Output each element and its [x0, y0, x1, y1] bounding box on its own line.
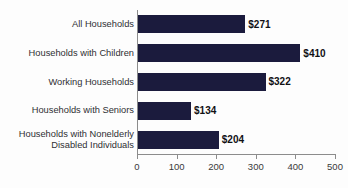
category-label: Households with Nonelderly Disabled Indi…: [4, 129, 134, 150]
x-axis-tick-label: 300: [248, 161, 264, 172]
category-label: Households with Seniors: [4, 105, 134, 116]
x-axis-tick: [177, 155, 178, 159]
bar-row: Households with Children$410: [0, 39, 348, 68]
bar-chart: All Households$271Households with Childr…: [0, 0, 348, 188]
bar-row: Households with Seniors$134: [0, 96, 348, 125]
bar-value-label: $322: [269, 76, 291, 87]
x-axis-tick-label: 400: [287, 161, 303, 172]
x-axis-line: [137, 154, 336, 155]
bar: [138, 131, 219, 149]
bar-with-label: $410: [138, 44, 326, 62]
x-axis-tick: [256, 155, 257, 159]
bar-value-label: $271: [248, 19, 270, 30]
bar-row: All Households$271: [0, 10, 348, 39]
x-axis-tick-label: 200: [208, 161, 224, 172]
bar-value-label: $134: [194, 105, 216, 116]
category-label: Working Households: [4, 77, 134, 88]
x-axis-tick: [295, 155, 296, 159]
x-axis-tick-label: 0: [134, 161, 139, 172]
bar-value-label: $204: [222, 134, 244, 145]
bar: [138, 15, 245, 33]
bar: [138, 73, 266, 91]
bar: [138, 44, 300, 62]
category-label: All Households: [4, 19, 134, 30]
bar-with-label: $204: [138, 131, 244, 149]
bar-with-label: $134: [138, 102, 216, 120]
bar-value-label: $410: [303, 48, 325, 59]
bar-with-label: $271: [138, 15, 271, 33]
category-label: Households with Children: [4, 48, 134, 59]
x-axis-tick-label: 100: [169, 161, 185, 172]
bar: [138, 102, 191, 120]
bar-with-label: $322: [138, 73, 291, 91]
x-axis-tick-label: 500: [327, 161, 343, 172]
x-axis-tick: [137, 155, 138, 159]
bar-row: Working Households$322: [0, 68, 348, 97]
bar-row: Households with Nonelderly Disabled Indi…: [0, 125, 348, 154]
x-axis-tick: [216, 155, 217, 159]
x-axis-tick: [335, 155, 336, 159]
